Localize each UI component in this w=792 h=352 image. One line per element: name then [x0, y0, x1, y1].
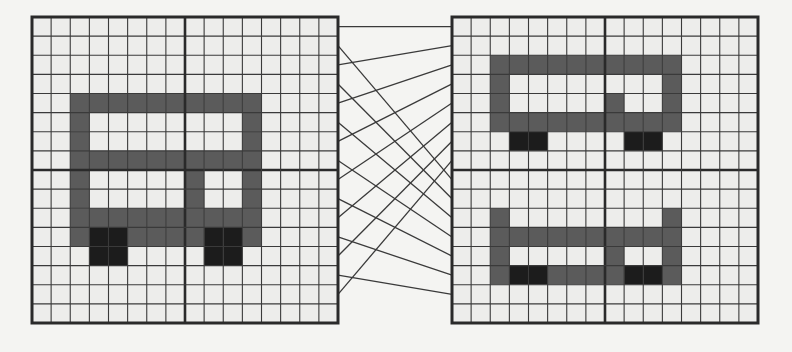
right-cell-r5-c11 [662, 113, 681, 132]
left-cell-r10-c11 [242, 208, 261, 227]
left-cell-r0-c14 [300, 17, 319, 36]
right-cell-r2-c6 [567, 55, 586, 74]
left-cell-r15-c12 [262, 304, 281, 323]
right-cell-r8-c4 [529, 170, 548, 189]
left-cell-r8-c3 [89, 170, 108, 189]
right-cell-r13-c10 [643, 266, 662, 285]
right-cell-r8-c2 [490, 170, 509, 189]
right-cell-r14-c3 [509, 285, 528, 304]
left-cell-r2-c3 [89, 55, 108, 74]
left-cell-r10-c4 [109, 208, 128, 227]
right-cell-r2-c11 [662, 55, 681, 74]
left-cell-r3-c6 [147, 74, 166, 93]
left-cell-r10-c15 [319, 208, 338, 227]
right-cell-r6-c14 [720, 132, 739, 151]
left-cell-r6-c1 [51, 132, 70, 151]
left-cell-r11-c14 [300, 227, 319, 246]
right-cell-r7-c15 [739, 151, 758, 170]
left-cell-r3-c0 [32, 74, 51, 93]
right-cell-r8-c5 [548, 170, 567, 189]
left-cell-r13-c7 [166, 266, 185, 285]
left-cell-r8-c13 [281, 170, 300, 189]
right-cell-r11-c7 [586, 227, 605, 246]
left-cell-r7-c14 [300, 151, 319, 170]
right-cell-r11-c3 [509, 227, 528, 246]
right-cell-r15-c14 [720, 304, 739, 323]
left-cell-r5-c4 [109, 113, 128, 132]
left-cell-r5-c14 [300, 113, 319, 132]
left-cell-r9-c7 [166, 189, 185, 208]
left-cell-r4-c0 [32, 94, 51, 113]
left-cell-r12-c11 [242, 247, 261, 266]
right-cell-r13-c5 [548, 266, 567, 285]
right-cell-r10-c11 [662, 208, 681, 227]
right-cell-r12-c14 [720, 247, 739, 266]
right-cell-r4-c5 [548, 94, 567, 113]
right-cell-r3-c13 [701, 74, 720, 93]
right-cell-r9-c13 [701, 189, 720, 208]
left-cell-r1-c15 [319, 36, 338, 55]
right-cell-r15-c7 [586, 304, 605, 323]
right-cell-r9-c2 [490, 189, 509, 208]
right-cell-r9-c14 [720, 189, 739, 208]
right-cell-r7-c1 [471, 151, 490, 170]
left-cell-r9-c11 [242, 189, 261, 208]
diagram-canvas [0, 0, 792, 352]
left-cell-r5-c8 [185, 113, 204, 132]
permutation-diagram [0, 0, 792, 352]
right-cell-r4-c10 [643, 94, 662, 113]
left-cell-r13-c13 [281, 266, 300, 285]
connector-row-2-to-1 [338, 46, 452, 65]
left-cell-r15-c14 [300, 304, 319, 323]
left-cell-r2-c12 [262, 55, 281, 74]
right-cell-r15-c8 [605, 304, 624, 323]
right-cell-r7-c2 [490, 151, 509, 170]
connector-row-4-to-2 [338, 65, 452, 103]
right-cell-r5-c1 [471, 113, 490, 132]
left-cell-r12-c15 [319, 247, 338, 266]
left-cell-r7-c13 [281, 151, 300, 170]
right-cell-r12-c1 [471, 247, 490, 266]
left-cell-r4-c15 [319, 94, 338, 113]
right-cell-r9-c6 [567, 189, 586, 208]
left-cell-r2-c11 [242, 55, 261, 74]
right-cell-r4-c13 [701, 94, 720, 113]
left-cell-r1-c11 [242, 36, 261, 55]
left-cell-r3-c10 [223, 74, 242, 93]
left-cell-r2-c13 [281, 55, 300, 74]
left-cell-r0-c13 [281, 17, 300, 36]
right-cell-r14-c11 [662, 285, 681, 304]
left-cell-r7-c10 [223, 151, 242, 170]
right-cell-r6-c1 [471, 132, 490, 151]
right-cell-r15-c12 [682, 304, 701, 323]
right-cell-r0-c11 [662, 17, 681, 36]
left-cell-r7-c0 [32, 151, 51, 170]
left-cell-r7-c6 [147, 151, 166, 170]
right-cell-r0-c13 [701, 17, 720, 36]
left-cell-r9-c2 [70, 189, 89, 208]
left-cell-r11-c9 [204, 227, 223, 246]
left-cell-r14-c11 [242, 285, 261, 304]
right-cell-r3-c6 [567, 74, 586, 93]
left-cell-r7-c12 [262, 151, 281, 170]
right-cell-r9-c4 [529, 189, 548, 208]
left-cell-r1-c2 [70, 36, 89, 55]
left-cell-r3-c14 [300, 74, 319, 93]
left-cell-r8-c5 [128, 170, 147, 189]
right-cell-r11-c11 [662, 227, 681, 246]
right-cell-r0-c9 [624, 17, 643, 36]
left-cell-r15-c0 [32, 304, 51, 323]
left-cell-r2-c10 [223, 55, 242, 74]
right-cell-r13-c3 [509, 266, 528, 285]
left-cell-r0-c7 [166, 17, 185, 36]
left-cell-r15-c11 [242, 304, 261, 323]
right-cell-r5-c6 [567, 113, 586, 132]
right-cell-r9-c1 [471, 189, 490, 208]
right-cell-r12-c6 [567, 247, 586, 266]
left-cell-r2-c14 [300, 55, 319, 74]
left-cell-r12-c2 [70, 247, 89, 266]
left-cell-r3-c15 [319, 74, 338, 93]
right-cell-r7-c6 [567, 151, 586, 170]
left-cell-r11-c1 [51, 227, 70, 246]
right-cell-r7-c0 [452, 151, 471, 170]
